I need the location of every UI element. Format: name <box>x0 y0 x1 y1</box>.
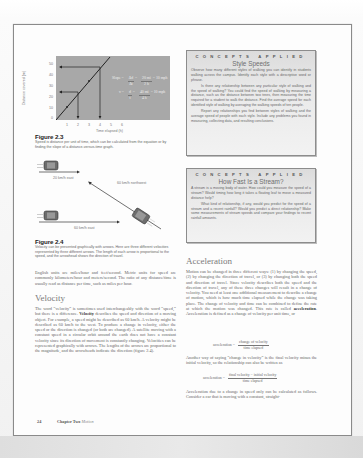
concepts-kicker: CONCEPTS APPLIED <box>187 172 315 177</box>
velocity-paragraph: The word “velocity” is sometimes used in… <box>35 306 176 354</box>
x-tick: 6 <box>121 123 123 127</box>
figure-2-4-title: Figure 2.4 <box>35 238 63 245</box>
closing-paragraph: Acceleration due to a change in speed on… <box>186 389 317 400</box>
concepts-applied-stream: CONCEPTS APPLIED How Fast Is a Stream? A… <box>186 168 316 243</box>
acceleration-paragraph: Motion can be changed in three different… <box>186 269 317 317</box>
x-tick: 1 <box>66 123 68 127</box>
y-axis-label: Distance covered (m) <box>22 53 26 123</box>
velocity-label-3: 60 km/h east <box>74 226 95 230</box>
distance-time-graph: Slope = ΔdΔt = 20 mi2 h = 10 mph v = dt … <box>56 56 170 120</box>
concepts-body: Observe how many different styles of wal… <box>187 67 315 127</box>
x-tick: 5 <box>110 123 112 127</box>
concepts-applied-style-speeds: CONCEPTS APPLIED Style Speeds Observe ho… <box>186 50 316 156</box>
y-tick: 0 <box>44 116 53 120</box>
acceleration-term: acceleration <box>294 306 316 311</box>
y-tick: 20 <box>44 95 53 99</box>
speed-equation: v = dt = 40 mi4 h = 10 mph <box>119 90 165 100</box>
y-tick: 30 <box>44 84 53 88</box>
scan-background <box>0 436 363 458</box>
y-tick: 40 <box>44 73 53 77</box>
velocity-label-1: 20 km/h east <box>53 176 74 180</box>
velocity-term: Velocity <box>79 311 94 316</box>
car-icon <box>132 207 157 228</box>
acceleration-formula-1: acceleration = change of velocitytime el… <box>213 340 269 350</box>
running-footer: Chapter Two Motion <box>57 419 94 424</box>
y-tick: 50 <box>44 62 53 66</box>
slope-equation: Slope = ΔdΔt = 20 mi2 h = 10 mph <box>112 76 167 86</box>
x-tick: 2 <box>77 123 79 127</box>
x-tick: 3 <box>88 123 90 127</box>
concepts-title: Style Speeds <box>187 60 315 67</box>
concepts-title: How Fast Is a Stream? <box>187 178 315 185</box>
velocity-heading: Velocity <box>35 293 65 303</box>
y-tick: 10 <box>44 106 53 110</box>
velocity-arrows-diagram <box>35 160 185 240</box>
figure-2-4-caption: Velocity can be presented graphically wi… <box>35 245 175 259</box>
acceleration-formula-2: acceleration = final velocity − initial … <box>203 373 277 383</box>
car-icon <box>37 211 58 220</box>
concepts-body: A stream is a moving body of water. How … <box>187 185 315 224</box>
units-paragraph: English units are miles/hour and feet/se… <box>35 270 176 286</box>
x-tick: 4 <box>99 123 101 127</box>
velocity-label-2: 60 km/h northwest <box>117 181 146 185</box>
figure-2-3-title: Figure 2.3 <box>35 133 63 140</box>
figure-2-3-caption: Speed is distance per unit of time, whic… <box>35 140 175 149</box>
page-number: 24 <box>37 419 41 424</box>
car-icon <box>37 161 58 170</box>
acceleration-heading: Acceleration <box>186 256 232 266</box>
change-in-velocity-paragraph: Another way of saying “change in velocit… <box>186 355 317 366</box>
x-axis-label: Time elapsed (h) <box>96 129 123 133</box>
graph-lines <box>56 56 170 120</box>
concepts-kicker: CONCEPTS APPLIED <box>187 54 315 59</box>
